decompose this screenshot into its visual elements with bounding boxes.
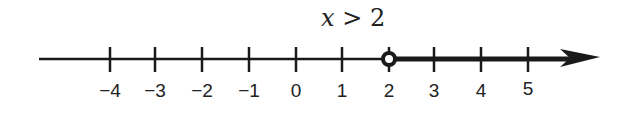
open-circle-icon bbox=[383, 53, 395, 65]
tick-label: −1 bbox=[238, 80, 260, 102]
tick-label: 0 bbox=[291, 80, 302, 102]
tick-label: 1 bbox=[337, 80, 348, 102]
number-line bbox=[0, 0, 630, 114]
tick-label: 4 bbox=[476, 80, 487, 102]
tick-label: −4 bbox=[99, 80, 121, 102]
tick-label: 3 bbox=[429, 80, 440, 102]
tick-label: 5 bbox=[523, 78, 534, 100]
tick-label: 2 bbox=[384, 80, 395, 102]
tick-label: −2 bbox=[191, 80, 213, 102]
tick-label: −3 bbox=[144, 80, 166, 102]
